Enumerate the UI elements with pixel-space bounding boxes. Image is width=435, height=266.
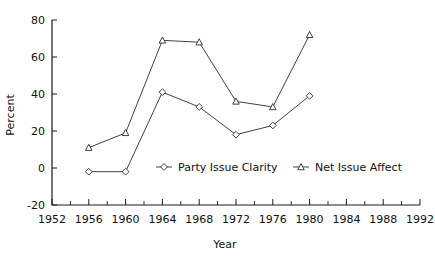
x-tick-label: 1964 bbox=[148, 213, 176, 226]
data-point-marker bbox=[122, 168, 129, 175]
legend-label: Party Issue Clarity bbox=[178, 161, 278, 174]
data-point-marker bbox=[86, 144, 92, 150]
y-axis-tick-labels: -20020406080 bbox=[27, 14, 45, 212]
y-tick-label: 0 bbox=[38, 162, 45, 175]
x-tick-label: 1976 bbox=[259, 213, 287, 226]
axes bbox=[52, 20, 420, 205]
x-axis-title: Year bbox=[212, 238, 237, 251]
x-tick-label: 1968 bbox=[185, 213, 213, 226]
chart-container: -20020406080 195219561960196419681972197… bbox=[0, 0, 435, 266]
y-tick-label: 20 bbox=[31, 125, 45, 138]
y-axis-title: Percent bbox=[4, 94, 17, 136]
series-2 bbox=[86, 31, 313, 150]
x-tick-label: 1992 bbox=[406, 213, 434, 226]
data-point-marker bbox=[233, 98, 239, 104]
y-tick-label: 60 bbox=[31, 51, 45, 64]
legend-item-2: Net Issue Affect bbox=[293, 161, 403, 174]
data-point-marker bbox=[159, 37, 165, 43]
legend-swatch-marker bbox=[161, 164, 168, 171]
axis-frame bbox=[52, 20, 420, 205]
data-point-marker bbox=[306, 31, 312, 37]
y-axis-ticks bbox=[52, 20, 57, 205]
legend-label: Net Issue Affect bbox=[315, 161, 403, 174]
legend-item-1: Party Issue Clarity bbox=[156, 161, 278, 174]
chart-legend: Party Issue ClarityNet Issue Affect bbox=[156, 161, 403, 174]
y-tick-label: 80 bbox=[31, 14, 45, 27]
data-point-marker bbox=[196, 104, 203, 111]
x-tick-label: 1972 bbox=[222, 213, 250, 226]
x-axis-tick-labels: 1952195619601964196819721976198019841988… bbox=[38, 213, 434, 226]
line-chart: -20020406080 195219561960196419681972197… bbox=[0, 0, 435, 266]
data-point-marker bbox=[159, 89, 166, 96]
x-axis-ticks bbox=[52, 199, 420, 205]
x-tick-label: 1956 bbox=[75, 213, 103, 226]
y-tick-label: -20 bbox=[27, 199, 45, 212]
data-point-marker bbox=[233, 131, 240, 138]
data-point-marker bbox=[85, 168, 92, 175]
series-line bbox=[89, 35, 310, 148]
x-tick-label: 1960 bbox=[112, 213, 140, 226]
y-tick-label: 40 bbox=[31, 88, 45, 101]
x-tick-label: 1988 bbox=[369, 213, 397, 226]
data-point-marker bbox=[122, 129, 128, 135]
x-tick-label: 1980 bbox=[296, 213, 324, 226]
x-tick-label: 1984 bbox=[332, 213, 360, 226]
x-tick-label: 1952 bbox=[38, 213, 66, 226]
data-series-group bbox=[85, 31, 313, 175]
